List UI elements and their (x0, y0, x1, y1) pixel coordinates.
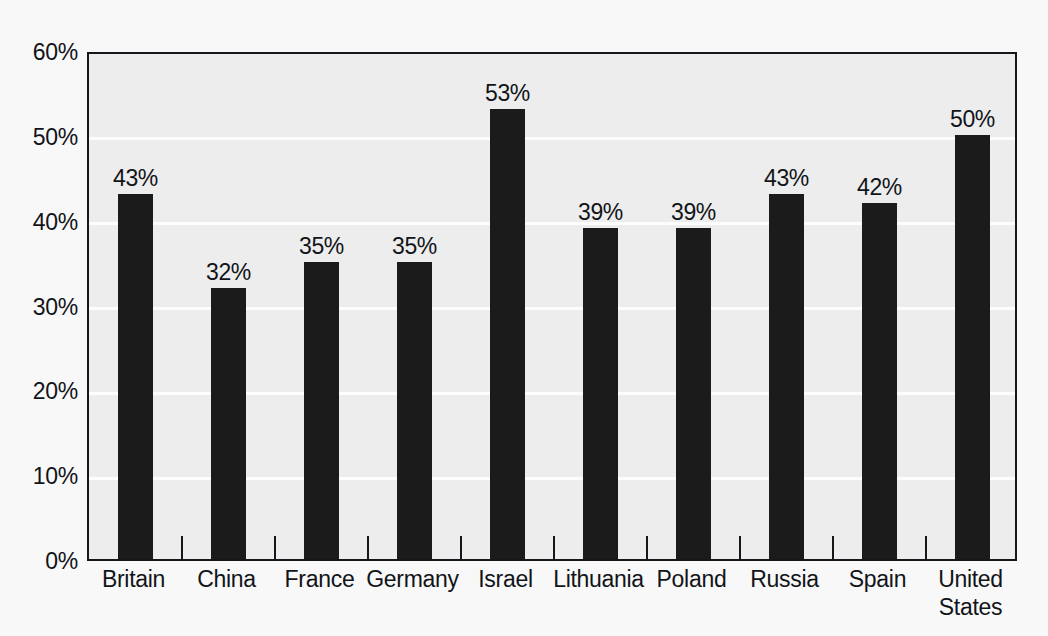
bar[interactable] (955, 135, 990, 559)
bar[interactable] (211, 288, 246, 559)
bar[interactable] (304, 262, 339, 559)
bar[interactable] (676, 228, 711, 559)
y-axis-tick-label: 10% (4, 465, 78, 488)
bar[interactable] (583, 228, 618, 559)
y-axis-tick-label: 30% (4, 296, 78, 319)
gridline (89, 137, 1015, 140)
bar[interactable] (862, 203, 897, 559)
x-axis-tick (367, 536, 369, 559)
bar-value-label: 42% (825, 176, 935, 199)
bar-value-label: 39% (639, 201, 749, 224)
x-axis-category-labels: BritainChinaFranceGermanyIsraelLithuania… (87, 565, 1017, 635)
bar-value-label: 43% (81, 167, 191, 190)
x-axis-tick (646, 536, 648, 559)
x-axis-tick (460, 536, 462, 559)
bar-value-label: 53% (453, 82, 563, 105)
x-axis-category-label: UnitedStates (906, 565, 1036, 621)
bar-value-label: 35% (360, 235, 470, 258)
y-axis-tick-label: 20% (4, 380, 78, 403)
x-axis-tick (553, 536, 555, 559)
y-axis-tick-label: 60% (4, 41, 78, 64)
category-label-line: States (906, 593, 1036, 621)
category-label-line: United (906, 565, 1036, 593)
x-axis-tick (925, 536, 927, 559)
y-axis-tick-label: 0% (4, 550, 78, 573)
bar[interactable] (490, 109, 525, 559)
x-axis-tick (739, 536, 741, 559)
x-axis-tick (274, 536, 276, 559)
y-axis-tick-label: 50% (4, 126, 78, 149)
x-axis-tick (832, 536, 834, 559)
plot-area: 43%32%35%35%53%39%39%43%42%50% (87, 52, 1017, 561)
bar-value-label: 50% (918, 108, 1028, 131)
bar-chart: 0%10%20%30%40%50%60% 43%32%35%35%53%39%3… (0, 0, 1048, 636)
plot-inner: 43%32%35%35%53%39%39%43%42%50% (89, 54, 1015, 559)
bar[interactable] (769, 194, 804, 559)
bar[interactable] (397, 262, 432, 559)
y-axis-tick-label: 40% (4, 211, 78, 234)
bar-value-label: 32% (174, 261, 284, 284)
bar[interactable] (118, 194, 153, 559)
x-axis-tick (181, 536, 183, 559)
